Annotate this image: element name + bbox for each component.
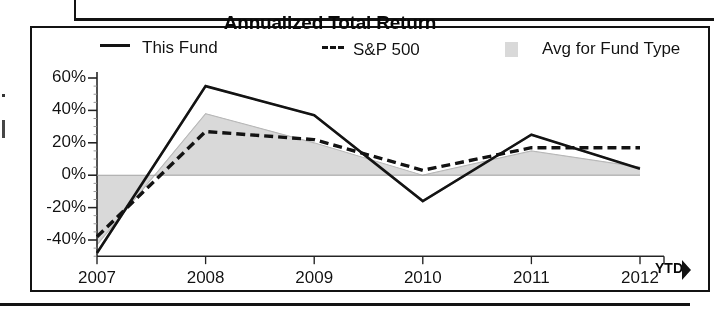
x-axis-label: 2011 bbox=[488, 268, 574, 288]
x-axis-label: 2009 bbox=[271, 268, 357, 288]
x-axis-label: 2010 bbox=[380, 268, 466, 288]
page-cut-arrow-icon bbox=[682, 260, 691, 280]
x-axis-label: 2007 bbox=[54, 268, 140, 288]
x-axis-label: 2008 bbox=[163, 268, 249, 288]
x-axis-ytd-label: YTD bbox=[655, 260, 683, 276]
